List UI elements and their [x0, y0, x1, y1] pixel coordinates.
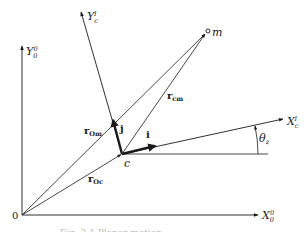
origin-label: 0	[12, 210, 18, 221]
r0m-label: rOm	[84, 125, 102, 138]
i-label: i	[146, 129, 150, 140]
point-c-label: c	[124, 157, 130, 170]
point-m-label: m	[212, 26, 222, 39]
x0-axis-label: X00	[261, 209, 274, 224]
r0c-label: rOc	[88, 173, 103, 186]
j-label: j	[119, 123, 124, 134]
r0c-vector	[22, 155, 121, 216]
y0-axis-label: Y00	[26, 45, 38, 60]
theta-label: θz	[259, 132, 270, 146]
rcm-vector	[122, 34, 205, 154]
yc-axis-label: YcI	[87, 10, 98, 25]
kinematics-diagram: Y00 X00 YcI XcI m c 0 rOm rOc rcm i j θz…	[0, 0, 307, 232]
point-m-marker	[206, 29, 210, 33]
xc-axis-label: XcI	[286, 115, 299, 130]
figure-caption: Fig. 2.1 Planar motion	[60, 228, 162, 232]
rcm-label: rcm	[167, 90, 183, 103]
theta-arc	[255, 126, 258, 154]
